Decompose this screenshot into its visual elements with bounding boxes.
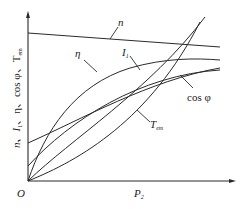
y-axis-label: n、I1、η、cos φ、Tem — [10, 48, 23, 148]
x-axis-label: P2 — [133, 187, 144, 200]
curve-cosphi — [28, 70, 220, 166]
leader-tem — [137, 110, 150, 122]
label-tem: Tem — [150, 118, 164, 131]
label-cosphi: cos φ — [187, 91, 211, 103]
chart-canvas: n η I1 cos φ Tem P2 O n、I1、η、cos φ、Tem — [0, 0, 247, 209]
y-axis-arrow-icon — [26, 11, 30, 18]
label-i1: I1 — [121, 46, 129, 59]
leader-eta — [84, 60, 97, 72]
curve-tem — [28, 22, 200, 181]
x-axis-arrow-icon — [229, 179, 236, 183]
label-n: n — [118, 16, 124, 28]
svg-text:n、I1、η、cos φ、Tem: n、I1、η、cos φ、Tem — [10, 48, 23, 148]
origin-label: O — [17, 187, 25, 199]
curve-eta — [28, 59, 220, 181]
label-eta: η — [75, 47, 80, 59]
curve-i1 — [28, 68, 220, 143]
curve-n — [28, 33, 220, 47]
leader-n — [110, 27, 118, 39]
leader-cosphi — [180, 75, 193, 88]
